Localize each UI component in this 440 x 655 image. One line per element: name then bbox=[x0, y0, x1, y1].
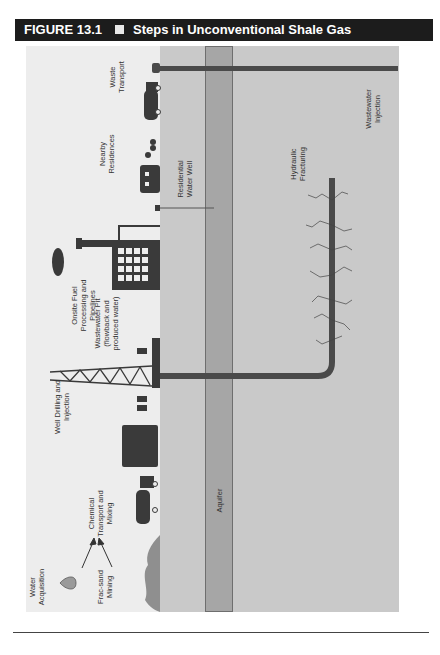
label-frac-sand: Frac-sand Mining bbox=[96, 562, 114, 612]
label-nearby-residences: Nearby Residences bbox=[98, 125, 116, 183]
chemical-truck-icon bbox=[136, 476, 158, 524]
label-well-drilling: Well Drilling and Injection bbox=[53, 367, 71, 447]
smoke-cloud-icon bbox=[52, 248, 64, 276]
label-chemical-transport: Chemical Transport and Mixing bbox=[87, 484, 114, 544]
label-hydraulic-fracturing: Hydraulic Fracturing bbox=[289, 138, 307, 190]
label-water-acquisition: Water Acquisition bbox=[28, 562, 46, 612]
valve-icon bbox=[137, 348, 147, 354]
bottom-rule bbox=[13, 632, 429, 633]
storage-tank-icon bbox=[122, 425, 158, 467]
label-wastewater-injection: Wastewater Injection bbox=[364, 81, 382, 137]
water-drop-icon bbox=[60, 577, 76, 589]
waste-truck-icon bbox=[144, 82, 161, 120]
label-residential-water-well: Residential Water Well bbox=[176, 154, 194, 204]
label-wastewater-pit: Wastewater Pit (flowback and produced wa… bbox=[93, 292, 120, 356]
frac-sand-hill-icon bbox=[145, 535, 160, 612]
residences-icon bbox=[140, 139, 160, 193]
label-aquifer: Aquifer bbox=[215, 476, 224, 526]
wastewater-injection-pipe bbox=[156, 66, 398, 71]
label-waste-transport: Waste Transport bbox=[108, 52, 126, 102]
